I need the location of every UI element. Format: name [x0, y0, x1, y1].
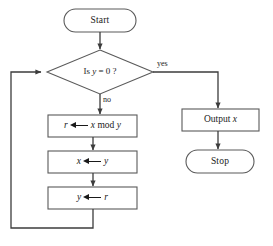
edge-yes-branch	[153, 72, 218, 108]
yes-branch-label: yes	[157, 59, 168, 68]
output-box-shape	[182, 109, 259, 131]
process-xy-shape	[48, 151, 137, 173]
process-yr-shape	[48, 187, 137, 209]
stop-terminal-shape	[186, 150, 254, 173]
no-branch-label: no	[103, 95, 111, 104]
process-mod-shape	[48, 115, 137, 137]
start-terminal-shape	[64, 9, 136, 32]
decision-diamond-shape	[47, 50, 153, 94]
flowchart-canvas: Start Is y = 0 ? yes no rx mod y xy yr O…	[0, 0, 273, 246]
flowchart-graphics	[0, 0, 273, 246]
